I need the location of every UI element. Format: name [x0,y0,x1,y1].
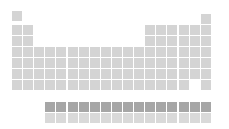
lanthanides-cell[interactable] [167,102,177,112]
element-cell[interactable] [101,80,111,90]
actinides-cell[interactable] [112,113,122,123]
element-cell[interactable] [167,36,177,46]
element-cell[interactable] [201,25,211,35]
element-cell[interactable] [134,58,144,68]
element-cell[interactable] [101,47,111,57]
element-cell[interactable] [123,47,133,57]
actinides-cell[interactable] [190,113,200,123]
element-cell[interactable] [179,69,189,79]
lanthanides-cell[interactable] [79,102,89,112]
actinides-cell[interactable] [90,113,100,123]
element-cell[interactable] [190,58,200,68]
element-cell[interactable] [201,80,211,90]
element-cell[interactable] [201,58,211,68]
element-cell[interactable] [23,25,33,35]
element-cell[interactable] [190,25,200,35]
element-cell[interactable] [190,69,200,79]
element-cell[interactable] [145,58,155,68]
element-cell[interactable] [134,69,144,79]
lanthanides-cell[interactable] [68,102,78,112]
element-cell[interactable] [123,69,133,79]
element-cell[interactable] [68,58,78,68]
element-cell[interactable] [56,80,66,90]
element-cell[interactable] [167,80,177,90]
element-cell[interactable] [56,58,66,68]
element-cell[interactable] [56,69,66,79]
element-cell[interactable] [156,36,166,46]
element-cell[interactable] [79,47,89,57]
element-cell[interactable] [167,58,177,68]
element-cell[interactable] [23,58,33,68]
element-cell[interactable] [167,25,177,35]
actinides-cell[interactable] [45,113,55,123]
element-cell[interactable] [145,69,155,79]
element-cell[interactable] [112,47,122,57]
element-cell[interactable] [68,80,78,90]
element-cell[interactable] [79,80,89,90]
element-cell[interactable] [112,69,122,79]
actinides-cell[interactable] [123,113,133,123]
element-cell[interactable] [156,25,166,35]
element-cell[interactable] [167,69,177,79]
actinides-cell[interactable] [101,113,111,123]
actinides-cell[interactable] [145,113,155,123]
lanthanides-cell[interactable] [45,102,55,112]
actinides-cell[interactable] [201,113,211,123]
element-cell[interactable] [190,36,200,46]
element-cell[interactable] [145,47,155,57]
element-cell[interactable] [201,69,211,79]
element-cell[interactable] [167,47,177,57]
element-cell[interactable] [123,58,133,68]
actinides-cell[interactable] [68,113,78,123]
element-cell[interactable] [190,47,200,57]
element-cell[interactable] [90,80,100,90]
element-cell[interactable] [23,69,33,79]
element-cell[interactable] [101,69,111,79]
element-cell[interactable] [201,47,211,57]
lanthanides-cell[interactable] [112,102,122,112]
element-cell[interactable] [34,69,44,79]
lanthanides-cell[interactable] [101,102,111,112]
element-cell[interactable] [68,47,78,57]
element-cell[interactable] [68,69,78,79]
element-cell[interactable] [112,58,122,68]
element-cell[interactable] [145,25,155,35]
element-cell[interactable] [112,80,122,90]
element-cell[interactable] [179,58,189,68]
actinides-cell[interactable] [179,113,189,123]
actinides-cell[interactable] [79,113,89,123]
element-cell[interactable] [156,47,166,57]
element-cell[interactable] [123,80,133,90]
element-cell[interactable] [156,80,166,90]
lanthanides-cell[interactable] [56,102,66,112]
lanthanides-cell[interactable] [156,102,166,112]
lanthanides-cell[interactable] [179,102,189,112]
element-cell[interactable] [45,69,55,79]
element-cell[interactable] [12,69,22,79]
element-cell[interactable] [145,36,155,46]
lanthanides-cell[interactable] [201,102,211,112]
element-cell[interactable] [101,58,111,68]
element-cell[interactable] [12,47,22,57]
element-cell[interactable] [90,47,100,57]
element-cell[interactable] [45,58,55,68]
element-cell[interactable] [56,47,66,57]
element-cell[interactable] [179,36,189,46]
element-cell[interactable] [134,47,144,57]
element-cell[interactable] [12,58,22,68]
element-cell[interactable] [23,36,33,46]
element-cell[interactable] [90,58,100,68]
element-cell[interactable] [79,58,89,68]
lanthanides-cell[interactable] [145,102,155,112]
element-cell[interactable] [34,58,44,68]
lanthanides-cell[interactable] [134,102,144,112]
element-cell[interactable] [12,25,22,35]
element-cell[interactable] [156,69,166,79]
element-cell[interactable] [201,36,211,46]
actinides-cell[interactable] [56,113,66,123]
element-cell[interactable] [79,69,89,79]
lanthanides-cell[interactable] [123,102,133,112]
element-cell[interactable] [156,58,166,68]
element-cell[interactable] [201,14,211,24]
element-cell[interactable] [179,47,189,57]
